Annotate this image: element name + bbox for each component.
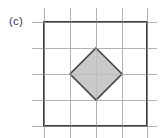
lattice-diagram	[0, 0, 166, 138]
figure-panel: (c)	[0, 0, 166, 138]
